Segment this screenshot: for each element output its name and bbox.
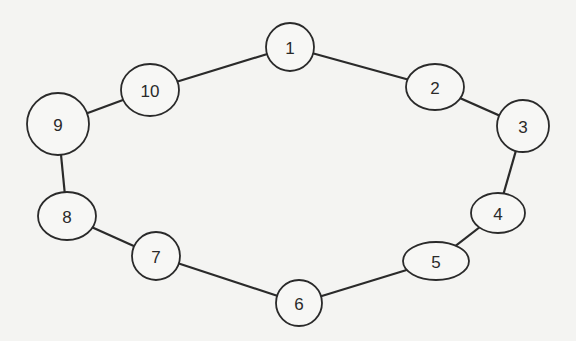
- node-label: 8: [62, 208, 71, 227]
- node-label: 3: [518, 118, 527, 137]
- ring-diagram: 12345678910: [0, 0, 576, 341]
- node-label: 6: [294, 295, 303, 314]
- node-label: 7: [151, 248, 160, 267]
- node-2: 2: [406, 64, 464, 110]
- node-5: 5: [403, 242, 469, 280]
- nodes-layer: 12345678910: [27, 23, 549, 326]
- node-label: 1: [285, 39, 294, 58]
- node-10: 10: [121, 64, 179, 116]
- node-label: 5: [431, 253, 440, 272]
- node-label: 10: [141, 82, 160, 101]
- node-label: 4: [493, 205, 502, 224]
- node-8: 8: [38, 192, 96, 240]
- node-6: 6: [276, 280, 322, 326]
- node-4: 4: [471, 193, 525, 233]
- node-label: 2: [430, 79, 439, 98]
- node-9: 9: [27, 93, 89, 155]
- node-3: 3: [497, 100, 549, 152]
- node-label: 9: [53, 116, 62, 135]
- node-7: 7: [132, 232, 180, 280]
- node-1: 1: [266, 23, 314, 71]
